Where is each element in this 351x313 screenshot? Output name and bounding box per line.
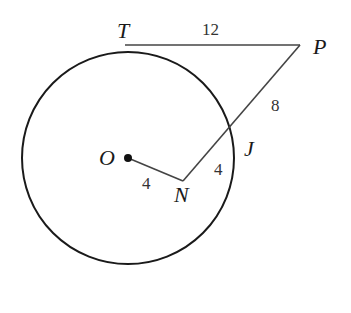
length-tp: 12 [202, 20, 219, 40]
label-o: O [99, 145, 115, 171]
length-on: 4 [142, 174, 151, 194]
segment-on [128, 158, 183, 181]
segment-pn [183, 45, 300, 181]
length-pj: 8 [271, 96, 280, 116]
label-p: P [313, 34, 326, 60]
label-n: N [174, 182, 189, 208]
geometry-diagram: T P J N O 12 8 4 4 [0, 0, 351, 313]
diagram-canvas [0, 0, 351, 313]
length-jn: 4 [214, 160, 223, 180]
center-point-o [124, 154, 132, 162]
label-j: J [244, 136, 254, 162]
label-t: T [117, 18, 129, 44]
